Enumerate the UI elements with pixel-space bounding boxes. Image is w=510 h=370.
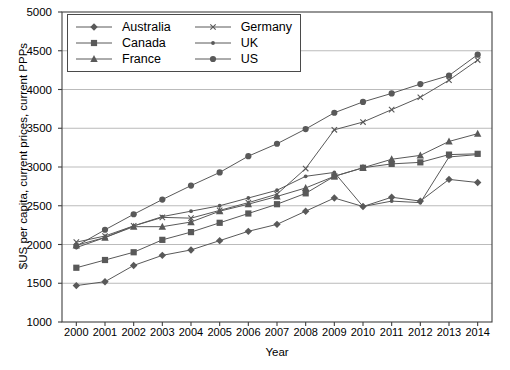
- line-chart: $US per capita, current prices, current …: [0, 0, 510, 370]
- legend-symbol-uk: [193, 35, 241, 51]
- legend-label-france: France: [122, 51, 193, 67]
- legend-symbol-canada: [74, 35, 122, 51]
- legend-symbol-australia: [74, 19, 122, 35]
- legend-label-australia: Australia: [122, 19, 193, 35]
- legend-label-germany: Germany: [241, 19, 292, 35]
- legend-label-canada: Canada: [122, 35, 193, 51]
- legend-label-uk: UK: [241, 35, 292, 51]
- chart-legend: Australia Germany Canada UK France US: [67, 14, 301, 72]
- legend-symbol-germany: [193, 19, 241, 35]
- legend-label-us: US: [241, 51, 292, 67]
- legend-symbol-us: [193, 51, 241, 67]
- legend-symbol-france: [74, 51, 122, 67]
